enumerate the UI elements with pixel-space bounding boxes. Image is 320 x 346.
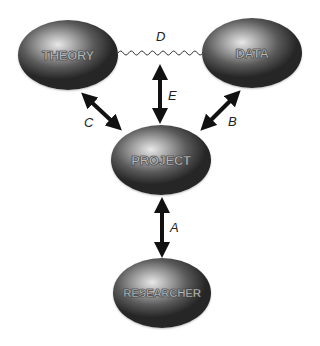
node-researcher-label: RESEARCHER	[123, 287, 201, 299]
node-project-label: PROJECT	[131, 153, 190, 168]
node-data-label: DATA	[236, 46, 269, 61]
edge-label-e: E	[168, 88, 177, 103]
node-theory-label: THEORY	[42, 48, 94, 63]
node-data: DATA	[202, 18, 302, 88]
node-project: PROJECT	[111, 125, 211, 195]
edge-d-wavy-line	[118, 51, 203, 55]
edge-label-a: A	[170, 220, 179, 235]
node-researcher: RESEARCHER	[113, 258, 211, 328]
edge-label-b: B	[228, 114, 237, 129]
edge-label-d: D	[156, 29, 165, 44]
node-theory: THEORY	[18, 20, 118, 90]
edge-label-c: C	[84, 115, 93, 130]
diagram-canvas: THEORY DATA PROJECT RESEARCHER D E C B A	[0, 0, 320, 346]
